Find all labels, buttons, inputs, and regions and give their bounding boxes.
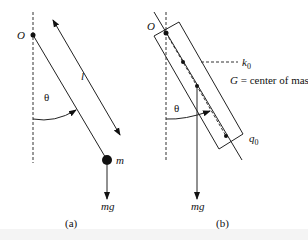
- force-label: mg: [101, 200, 115, 212]
- g-symbol: G: [230, 74, 238, 86]
- caption-a: (a): [65, 217, 78, 230]
- pivot-point: [164, 31, 169, 36]
- k0-label: k0: [242, 56, 251, 71]
- angle-label: θ: [174, 102, 179, 114]
- pivot-label: O: [17, 29, 25, 41]
- point-k0: [181, 60, 185, 64]
- pivot-point: [31, 33, 36, 38]
- panel-a: O l θ m mg (a): [17, 12, 124, 230]
- q-subscript: 0: [255, 138, 259, 147]
- mass-label: m: [116, 154, 124, 166]
- center-of-mass-legend: G = center of mass: [230, 74, 308, 86]
- g-description: = center of mass: [238, 74, 308, 86]
- point-q0: [224, 134, 228, 138]
- length-label: l: [81, 70, 84, 82]
- mass-bob: [102, 155, 112, 165]
- k-subscript: 0: [247, 62, 251, 71]
- angle-arc: [166, 111, 210, 119]
- panel-b: O k0 G = center of mass q0 θ mg (b): [147, 12, 308, 230]
- pivot-label: O: [147, 20, 155, 32]
- angle-label: θ: [44, 91, 49, 103]
- q0-label: q0: [249, 132, 259, 147]
- caption-b: (b): [216, 217, 229, 230]
- angle-arc: [33, 110, 76, 120]
- pendulum-diagram: O l θ m mg (a) O k0 G = center of mass q…: [0, 0, 308, 240]
- force-label: mg: [191, 200, 205, 212]
- length-arrow: [53, 20, 120, 135]
